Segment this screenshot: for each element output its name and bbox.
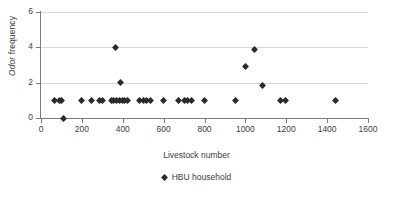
x-axis-tick-label: 0: [21, 124, 61, 134]
diamond-marker-icon: [161, 173, 168, 180]
data-point-marker: [60, 114, 67, 121]
chart-legend: HBU household: [0, 172, 393, 182]
data-point-marker: [201, 97, 208, 104]
data-point-marker: [112, 44, 119, 51]
x-axis-tick: [41, 119, 42, 123]
x-axis-tick: [205, 119, 206, 123]
gridline: [41, 47, 368, 48]
x-axis-tick-label: 1600: [348, 124, 388, 134]
x-axis-tick: [82, 119, 83, 123]
legend-entry-label: HBU household: [172, 172, 232, 182]
x-axis-tick-label: 600: [144, 124, 184, 134]
x-axis-tick: [368, 119, 369, 123]
x-axis-tick: [164, 119, 165, 123]
data-point-marker: [332, 97, 339, 104]
data-point-marker: [117, 79, 124, 86]
x-axis-tick-label: 200: [62, 124, 102, 134]
x-axis-tick: [286, 119, 287, 123]
scatter-chart-figure: Odor frequency 0246 02004006008001000120…: [0, 0, 393, 198]
data-point-marker: [242, 63, 249, 70]
y-axis-tick-label: 4: [11, 41, 33, 51]
x-axis-title: Livestock number: [0, 150, 393, 160]
y-axis-tick-label: 0: [11, 112, 33, 122]
y-axis-tick-label: 2: [11, 77, 33, 87]
y-axis-tick-label: 6: [11, 6, 33, 16]
x-axis-tick-label: 800: [185, 124, 225, 134]
x-axis-tick-label: 1000: [225, 124, 265, 134]
data-point-marker: [78, 97, 85, 104]
gridline: [41, 83, 368, 84]
y-axis-title-emphasis: Odor: [7, 57, 17, 76]
x-axis-tick: [123, 119, 124, 123]
gridline: [41, 12, 368, 13]
data-point-marker: [282, 97, 289, 104]
x-axis-tick-label: 1400: [307, 124, 347, 134]
data-point-marker: [160, 97, 167, 104]
data-point-marker: [232, 97, 239, 104]
x-axis-tick-label: 1200: [266, 124, 306, 134]
data-point-marker: [124, 97, 131, 104]
x-axis-tick: [245, 119, 246, 123]
x-axis-tick-label: 400: [103, 124, 143, 134]
data-point-marker: [88, 97, 95, 104]
data-point-marker: [147, 97, 154, 104]
plot-area: [41, 12, 368, 118]
x-axis-tick: [327, 119, 328, 123]
